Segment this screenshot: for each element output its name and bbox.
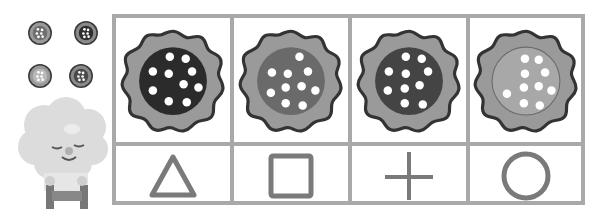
legend-cookie-medium: [27, 20, 53, 46]
legend-cookie-dark: [73, 20, 99, 46]
cookie-dark-icon: [120, 25, 226, 135]
sheep-mascot-icon: [14, 95, 112, 213]
circle-icon: [500, 150, 552, 202]
legend-cookie-light: [27, 63, 53, 89]
cookie-cell-1[interactable]: [116, 18, 230, 142]
square-icon: [267, 152, 315, 200]
legend-cookie-dark-medium: [68, 63, 94, 89]
triangle-icon: [148, 153, 198, 199]
symbol-cell-3[interactable]: [352, 146, 466, 205]
matching-grid: [112, 14, 585, 205]
cookie-light-icon: [473, 25, 579, 135]
cookie-cell-3[interactable]: [352, 18, 466, 142]
cookie-cell-2[interactable]: [234, 18, 348, 142]
plus-icon: [383, 150, 435, 202]
symbol-cell-4[interactable]: [470, 146, 581, 205]
symbol-cell-2[interactable]: [234, 146, 348, 205]
symbol-cell-1[interactable]: [116, 146, 230, 205]
cookie-medium-icon: [238, 25, 344, 135]
cookie-dark-medium-icon: [356, 25, 462, 135]
cookie-cell-4[interactable]: [470, 18, 581, 142]
